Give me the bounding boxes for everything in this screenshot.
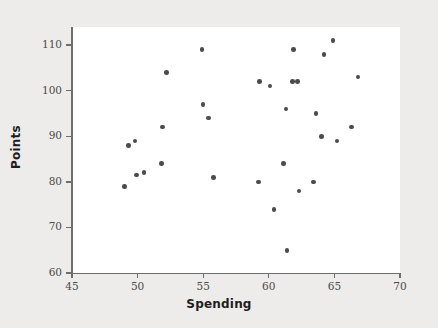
data-point <box>257 79 262 84</box>
y-tick-mark <box>66 90 71 91</box>
y-tick-mark <box>66 181 71 182</box>
y-tick-label: 100 <box>36 84 62 96</box>
x-axis-title: Spending <box>0 297 438 311</box>
scatter-chart: 60708090100110 455055606570 Spending Poi… <box>0 0 438 328</box>
x-tick-mark <box>203 273 204 278</box>
data-point <box>291 47 296 52</box>
data-point <box>290 79 295 84</box>
data-point <box>314 111 319 116</box>
y-tick-label: 60 <box>36 266 62 278</box>
y-tick-label: 80 <box>36 175 62 187</box>
x-tick-mark <box>268 273 269 278</box>
plot-area <box>72 27 400 273</box>
data-point <box>272 207 277 212</box>
data-point <box>311 180 316 185</box>
y-axis-title: Points <box>9 107 23 187</box>
data-point <box>159 161 164 166</box>
data-point <box>211 175 216 180</box>
data-point <box>122 184 127 189</box>
y-tick-label: 90 <box>36 129 62 141</box>
data-point <box>126 143 131 148</box>
data-point <box>319 134 324 139</box>
y-tick-mark <box>66 227 71 228</box>
x-tick-label: 65 <box>321 280 347 292</box>
y-tick-mark <box>66 44 71 45</box>
y-axis-line <box>71 27 73 274</box>
data-point <box>256 180 261 185</box>
x-tick-label: 50 <box>125 280 151 292</box>
data-point <box>206 116 211 121</box>
x-tick-mark <box>71 273 72 278</box>
x-tick-label: 70 <box>387 280 413 292</box>
data-point <box>295 79 300 84</box>
data-point <box>285 248 290 253</box>
x-tick-mark <box>137 273 138 278</box>
y-tick-label: 110 <box>36 38 62 50</box>
y-tick-mark <box>66 136 71 137</box>
data-point <box>200 47 205 52</box>
y-tick-label: 70 <box>36 220 62 232</box>
x-tick-label: 60 <box>256 280 282 292</box>
x-tick-mark <box>334 273 335 278</box>
x-tick-label: 45 <box>59 280 85 292</box>
x-tick-label: 55 <box>190 280 216 292</box>
data-point <box>322 52 327 57</box>
x-tick-mark <box>399 273 400 278</box>
data-point <box>281 161 286 166</box>
y-tick-mark <box>66 272 71 273</box>
data-point <box>164 70 169 75</box>
x-axis-line <box>71 273 401 275</box>
data-point <box>134 173 139 178</box>
